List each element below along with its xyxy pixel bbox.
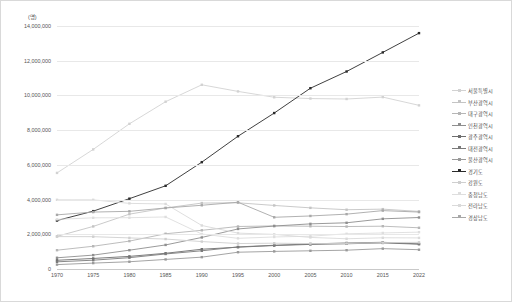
data-point-marker [237, 90, 239, 92]
data-point-marker [56, 218, 58, 220]
y-axis-tick-label: 6,000,000 [27, 162, 51, 168]
series-line [57, 85, 419, 173]
data-point-marker [56, 249, 58, 251]
data-point-marker [345, 249, 347, 251]
data-point-marker [273, 216, 275, 218]
data-point-marker [201, 161, 203, 163]
data-point-marker [201, 224, 203, 226]
x-axis-tick-label: 2005 [304, 272, 316, 278]
series-line [57, 203, 419, 237]
x-axis-tick-label: 1970 [51, 272, 63, 278]
y-axis-tick-label: 14,000,000 [24, 23, 51, 29]
chart-figure: (명) 14,000,00012,000,00010,000,0008,000,… [0, 0, 512, 302]
y-axis-tick-label: 12,000,000 [24, 58, 51, 64]
legend-label: 광주광역시 [466, 133, 493, 140]
data-point-marker [418, 32, 420, 34]
data-point-marker [201, 84, 203, 86]
legend-item[interactable]: 서울특별시 [452, 85, 510, 97]
legend-item[interactable]: 광주광역시 [452, 131, 510, 143]
legend-item[interactable]: 경기도 [452, 166, 510, 178]
data-point-marker [164, 253, 166, 255]
gridline [57, 234, 419, 235]
data-point-marker [128, 249, 130, 251]
data-point-marker [201, 229, 203, 231]
x-axis-tick-label: 1990 [196, 272, 208, 278]
chart-legend: 서울특별시부산광역시대구광역시인천광역시광주광역시대전광역시울산광역시경기도강원… [452, 85, 510, 223]
data-point-marker [418, 241, 420, 243]
data-point-marker [382, 218, 384, 220]
data-point-marker [273, 244, 275, 246]
data-point-marker [345, 238, 347, 240]
data-point-marker [56, 257, 58, 259]
data-point-marker [92, 217, 94, 219]
legend-swatch-icon [452, 109, 466, 118]
data-point-marker [418, 104, 420, 106]
legend-item[interactable]: 대구광역시 [452, 108, 510, 120]
data-point-marker [128, 216, 130, 218]
data-point-marker [382, 51, 384, 53]
data-point-marker [164, 207, 166, 209]
data-point-marker [345, 213, 347, 215]
legend-swatch-icon [452, 201, 466, 210]
legend-label: 서울특별시 [466, 87, 493, 94]
data-point-marker [92, 235, 94, 237]
data-point-marker [309, 236, 311, 238]
data-point-marker [128, 213, 130, 215]
data-point-marker [164, 100, 166, 102]
gridline [57, 61, 419, 62]
gridline [57, 165, 419, 166]
data-point-marker [273, 204, 275, 206]
data-point-marker [309, 87, 311, 89]
y-axis-unit-label: (명) [28, 13, 37, 21]
data-point-marker [273, 236, 275, 238]
x-axis-tick-label: 2022 [413, 272, 425, 278]
legend-item[interactable]: 인천광역시 [452, 120, 510, 132]
data-point-marker [92, 148, 94, 150]
data-point-marker [201, 202, 203, 204]
data-point-marker [92, 225, 94, 227]
legend-swatch-icon [452, 213, 466, 222]
data-point-marker [92, 262, 94, 264]
legend-swatch-icon [452, 132, 466, 141]
legend-label: 경기도 [466, 168, 483, 175]
legend-swatch-icon [452, 121, 466, 130]
legend-swatch-icon [452, 155, 466, 164]
data-point-marker [128, 123, 130, 125]
plot-area [57, 26, 419, 269]
data-point-marker [237, 242, 239, 244]
data-point-marker [128, 237, 130, 239]
legend-label: 대구광역시 [466, 110, 493, 117]
data-point-marker [309, 242, 311, 244]
legend-item[interactable]: 전라남도 [452, 200, 510, 212]
legend-item[interactable]: 울산광역시 [452, 154, 510, 166]
data-point-marker [382, 241, 384, 243]
legend-swatch-icon [452, 86, 466, 95]
data-point-marker [201, 240, 203, 242]
legend-item[interactable]: 대전광역시 [452, 143, 510, 155]
legend-item[interactable]: 부산광역시 [452, 97, 510, 109]
legend-item[interactable]: 강원도 [452, 177, 510, 189]
y-axis-tick-label: 4,000,000 [27, 197, 51, 203]
data-point-marker [56, 235, 58, 237]
data-point-marker [237, 237, 239, 239]
legend-item[interactable]: 경상남도 [452, 212, 510, 224]
data-point-marker [309, 223, 311, 225]
x-axis-tick-label: 1980 [123, 272, 135, 278]
data-point-marker [237, 251, 239, 253]
legend-label: 울산광역시 [466, 156, 493, 163]
data-point-marker [128, 256, 130, 258]
data-point-marker [128, 240, 130, 242]
data-point-marker [164, 244, 166, 246]
x-axis-tick-label: 1995 [232, 272, 244, 278]
data-point-marker [201, 204, 203, 206]
legend-item[interactable]: 충청남도 [452, 189, 510, 201]
data-point-marker [382, 237, 384, 239]
data-point-marker [345, 225, 347, 227]
data-point-marker [418, 227, 420, 229]
legend-swatch-icon [452, 167, 466, 176]
data-point-marker [56, 172, 58, 174]
data-point-marker [56, 261, 58, 263]
gridline [57, 130, 419, 131]
legend-label: 강원도 [466, 179, 483, 186]
data-point-marker [345, 222, 347, 224]
